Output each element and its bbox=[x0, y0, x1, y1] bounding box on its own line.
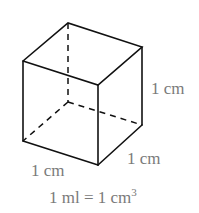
cube-hidden-back-edge bbox=[68, 102, 142, 125]
width-label: 1 cm bbox=[31, 162, 65, 179]
cube-diagram bbox=[0, 0, 199, 213]
cube-top-face bbox=[23, 23, 142, 85]
depth-label: 1 cm bbox=[127, 150, 161, 167]
cube-hidden-left-edge bbox=[23, 102, 68, 141]
height-label: 1 cm bbox=[151, 80, 185, 97]
volume-equation: 1 ml = 1 cm3 bbox=[49, 189, 137, 206]
cube-exponent: 3 bbox=[131, 186, 137, 198]
volume-equation-text: 1 ml = 1 cm bbox=[49, 188, 131, 207]
